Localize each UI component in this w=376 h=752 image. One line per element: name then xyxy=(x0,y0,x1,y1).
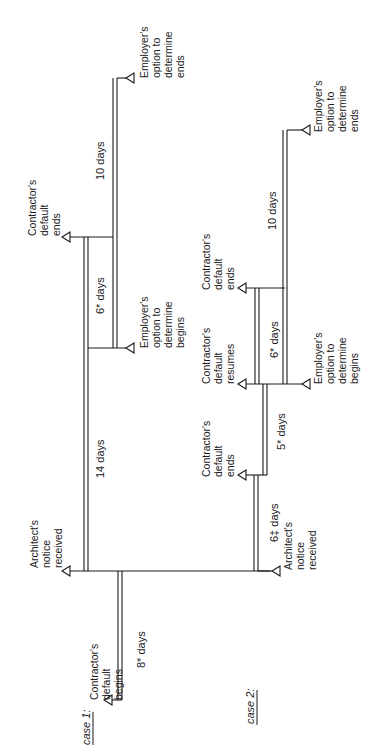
event-label-contractor-default-ends: Contractor's default ends xyxy=(26,180,62,236)
svg-text:begins: begins xyxy=(174,317,186,348)
duration-label-6-days: 6* days xyxy=(94,277,106,314)
case-2-group: case 2: 6‡ days 5* days 6* days 10 days xyxy=(200,80,360,725)
svg-text:determine: determine xyxy=(162,301,174,348)
svg-text:default: default xyxy=(212,258,224,290)
event-label-contractor-default-ends-2: Contractor's default ends xyxy=(200,234,236,290)
event-label-contractor-default-resumes: Contractor's default resumes xyxy=(200,328,236,384)
svg-text:Employer's: Employer's xyxy=(138,296,150,348)
svg-text:determine: determine xyxy=(162,31,174,78)
svg-text:notice: notice xyxy=(40,540,52,568)
svg-text:Employer's: Employer's xyxy=(312,332,324,384)
svg-text:ends: ends xyxy=(348,109,360,132)
duration-label-5-days: 5* days xyxy=(275,413,287,450)
svg-text:option to: option to xyxy=(150,38,162,78)
svg-text:ends: ends xyxy=(50,213,62,236)
svg-text:determine: determine xyxy=(336,85,348,132)
case-2-label: case 2: xyxy=(244,689,256,724)
svg-text:Employer's: Employer's xyxy=(312,80,324,132)
duration-label-6-double-dagger-days: 6‡ days xyxy=(268,503,280,542)
duration-label-10-days: 10 days xyxy=(266,191,278,230)
svg-text:determine: determine xyxy=(336,337,348,384)
event-label-employer-option-begins: Employer's option to determine begins xyxy=(312,332,360,384)
svg-text:Architect's: Architect's xyxy=(28,520,40,568)
event-label-employer-option-ends: Employer's option to determine ends xyxy=(312,80,360,132)
duration-label-8-days: 8* days xyxy=(135,631,147,668)
triangle-marker-icon xyxy=(302,379,310,389)
svg-text:Contractor's: Contractor's xyxy=(88,644,100,700)
triangle-marker-icon xyxy=(126,343,134,353)
case-1-label: case 1: xyxy=(80,710,92,745)
event-label-architect-notice-received: Architect's notice received xyxy=(282,522,318,570)
svg-text:ends: ends xyxy=(224,454,236,477)
event-label-employer-option-ends: Employer's option to determine ends xyxy=(138,26,186,78)
triangle-marker-icon xyxy=(238,470,246,480)
svg-text:default: default xyxy=(100,668,112,700)
triangle-marker-icon xyxy=(302,125,310,135)
svg-text:Contractor's: Contractor's xyxy=(26,180,38,236)
triangle-marker-icon xyxy=(62,232,70,242)
svg-text:received: received xyxy=(52,528,64,568)
case-1-group: case 1: 8* days 14 days 6* days 10 days xyxy=(26,26,270,745)
svg-text:Architect's: Architect's xyxy=(282,522,294,570)
svg-text:Employer's: Employer's xyxy=(138,26,150,78)
svg-text:default: default xyxy=(212,352,224,384)
svg-text:Contractor's: Contractor's xyxy=(200,421,212,477)
svg-text:default: default xyxy=(212,445,224,477)
event-label-contractor-default-ends: Contractor's default ends xyxy=(200,421,236,477)
timeline-diagram: case 1: 8* days 14 days 6* days 10 days xyxy=(0,0,376,752)
event-label-contractor-default-begins: Contractor's default begins xyxy=(88,644,124,700)
svg-text:begins: begins xyxy=(112,669,124,700)
svg-text:Contractor's: Contractor's xyxy=(200,234,212,290)
duration-label-6-days: 6* days xyxy=(268,321,280,358)
svg-text:ends: ends xyxy=(174,55,186,78)
svg-text:default: default xyxy=(38,204,50,236)
triangle-marker-icon xyxy=(126,73,134,83)
triangle-marker-icon xyxy=(272,566,280,576)
svg-text:resumes: resumes xyxy=(224,344,236,384)
duration-label-10-days: 10 days xyxy=(94,141,106,180)
triangle-marker-icon xyxy=(238,379,246,389)
triangle-marker-icon xyxy=(238,283,246,293)
svg-text:notice: notice xyxy=(294,542,306,570)
duration-label-14-days: 14 days xyxy=(94,439,106,478)
svg-text:ends: ends xyxy=(224,267,236,290)
svg-text:Contractor's: Contractor's xyxy=(200,328,212,384)
svg-text:begins: begins xyxy=(348,353,360,384)
event-label-employer-option-begins: Employer's option to determine begins xyxy=(138,296,186,348)
svg-text:option to: option to xyxy=(324,344,336,384)
svg-text:option to: option to xyxy=(150,308,162,348)
svg-text:option to: option to xyxy=(324,92,336,132)
svg-text:received: received xyxy=(306,530,318,570)
event-label-architect-notice-received: Architect's notice received xyxy=(28,520,64,568)
